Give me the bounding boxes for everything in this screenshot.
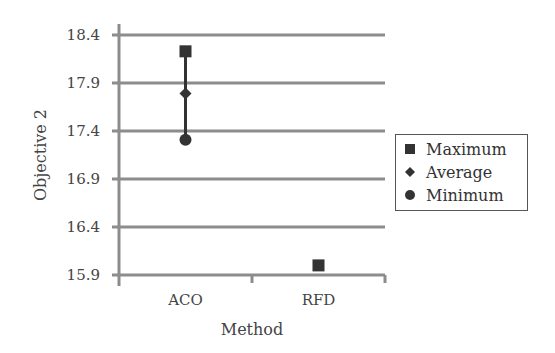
y-tick-label: 18.4 xyxy=(67,26,100,44)
x-tick-label: RFD xyxy=(302,291,336,309)
marker-average xyxy=(180,88,192,100)
x-axis-title: Method xyxy=(221,320,283,339)
legend-item-maximum: Maximum xyxy=(404,138,507,160)
diamond-marker-icon xyxy=(404,166,416,178)
legend-label: Average xyxy=(426,163,492,182)
x-tick-labels: ACORFD xyxy=(167,291,335,309)
legend-item-average: Average xyxy=(404,161,492,183)
y-tick-label: 17.9 xyxy=(67,74,100,92)
data-markers xyxy=(180,45,325,271)
y-tick-labels: 15.916.416.917.417.918.4 xyxy=(67,26,100,284)
gridlines xyxy=(112,35,385,283)
legend-item-minimum: Minimum xyxy=(404,184,504,206)
y-tick-label: 16.4 xyxy=(67,218,100,236)
square-marker-icon xyxy=(404,143,416,155)
marker-maximum xyxy=(180,45,192,57)
marker-maximum xyxy=(313,259,325,271)
legend-label: Maximum xyxy=(426,140,507,159)
y-tick-label: 17.4 xyxy=(67,122,100,140)
x-tick-label: ACO xyxy=(167,291,203,309)
y-tick-label: 16.9 xyxy=(67,170,100,188)
y-axis-title: Objective 2 xyxy=(31,109,50,201)
marker-minimum xyxy=(180,134,192,146)
y-tick-label: 15.9 xyxy=(67,266,100,284)
legend: Maximum Average Minimum xyxy=(395,134,528,211)
legend-label: Minimum xyxy=(426,186,504,205)
circle-marker-icon xyxy=(404,189,416,201)
